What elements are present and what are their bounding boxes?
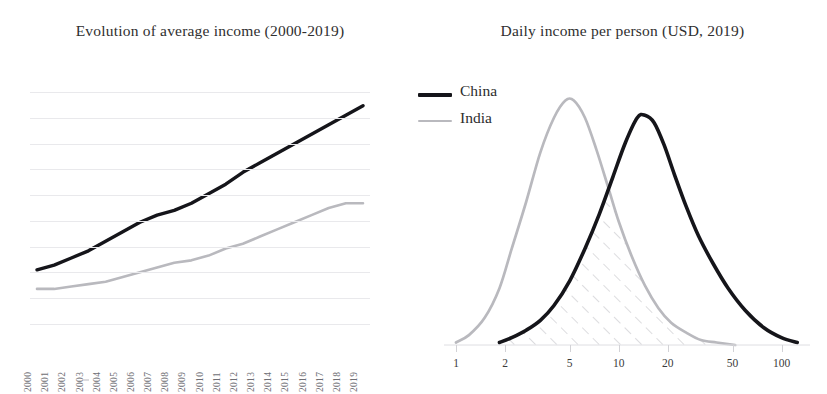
x-axis-tick-mark [619,345,620,352]
x-axis-tick-label: 2005 [109,372,119,392]
left-chart-title: Evolution of average income (2000-2019) [0,22,414,40]
x-axis-tick-label: 2002 [57,372,67,392]
x-axis-tick-label: 2015 [280,372,290,392]
gridline [30,92,370,93]
left-chart-plot-area [30,84,370,332]
x-axis-tick-label: 2007 [143,372,153,392]
x-axis-tick-label: 100 [773,357,790,369]
x-axis-tick-mark [782,345,783,352]
x-axis-tick-label: 2004 [92,372,102,392]
two-panel-figure: Evolution of average income (2000-2019) … [0,0,827,394]
x-axis-tick-label: 2014 [263,372,273,392]
scan-artifact-speck [83,379,89,381]
left-chart-gridlines [30,84,370,332]
x-axis-tick-mark [733,345,734,352]
x-axis-tick-label: 2008 [160,372,170,392]
x-axis-tick-label: 2011 [212,372,222,392]
x-axis-tick-label: 5 [567,357,573,369]
x-axis-tick-label: 1 [453,357,459,369]
x-axis-tick-mark [505,345,506,352]
right-chart-plot-area [444,84,810,346]
right-chart-curves [444,84,810,346]
x-axis-tick-label: 20 [662,357,674,369]
x-axis-tick-mark [456,345,457,352]
right-chart-x-axis-labels: 125102050100 [444,345,810,373]
gridline [30,144,370,145]
x-axis-tick-label: 2012 [229,372,239,392]
distribution-overlap-hatch [499,191,720,345]
x-axis-tick-label: 2016 [298,372,308,392]
gridline [30,324,370,325]
gridline [30,298,370,299]
left-chart-x-axis-labels: 2000200120022003200420052006200720082009… [30,334,370,392]
x-axis-tick-label: 50 [727,357,739,369]
gridline [30,247,370,248]
gridline [30,221,370,222]
x-axis-tick-mark [668,345,669,352]
x-axis-tick-mark [570,345,571,352]
x-axis-tick-label: 2006 [126,372,136,392]
x-axis-tick-label: 2013 [246,372,256,392]
x-axis-tick-label: 2009 [177,372,187,392]
x-axis-tick-label: 2001 [40,372,50,392]
x-axis-tick-label: 10 [613,357,625,369]
panel-daily-income-per-person: Daily income per person (USD, 2019) Chin… [414,0,827,394]
x-axis-tick-label: 2019 [349,372,359,392]
gridline [30,169,370,170]
gridline [30,195,370,196]
x-axis-tick-label: 2017 [315,372,325,392]
gridline [30,118,370,119]
panel-evolution-of-average-income: Evolution of average income (2000-2019) … [0,0,414,394]
gridline [30,272,370,273]
x-axis-tick-label: 2010 [195,372,205,392]
x-axis-tick-label: 2 [502,357,508,369]
right-chart-title: Daily income per person (USD, 2019) [414,22,827,40]
x-axis-tick-label: 2003 [75,372,85,392]
x-axis-tick-label: 2000 [23,372,33,392]
x-axis-tick-label: 2018 [332,372,342,392]
